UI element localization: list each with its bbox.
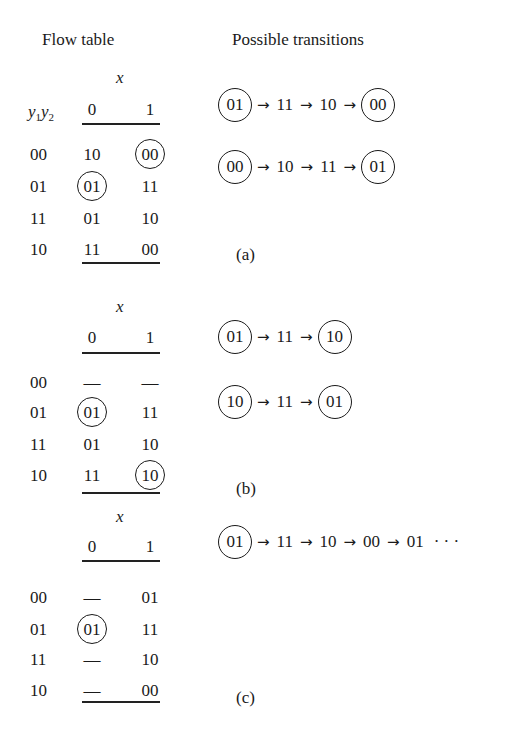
table-cell: 01 xyxy=(72,209,112,229)
table-cell: 10 xyxy=(130,466,170,490)
table-cell: — xyxy=(130,373,170,393)
state-label: 00 xyxy=(30,373,47,393)
stable-state-circle: 01 xyxy=(361,150,395,184)
column-header: 1 xyxy=(130,537,170,557)
state-label: 00 xyxy=(30,588,47,608)
transition-sequence: 01→11→10 xyxy=(218,320,352,354)
arrow-icon: → xyxy=(382,533,405,551)
column-header: 0 xyxy=(72,328,112,348)
column-header: 0 xyxy=(72,537,112,557)
next-state-value: 11 xyxy=(84,466,100,485)
next-state-value: 11 xyxy=(142,177,158,196)
table-cell: 11 xyxy=(72,466,112,486)
next-state-value: 01 xyxy=(142,588,159,607)
state-label: 01 xyxy=(30,177,47,197)
input-variable-label: x xyxy=(116,68,124,88)
transient-state: 01 xyxy=(405,532,426,552)
transitions-header: Possible transitions xyxy=(232,30,364,50)
stable-state-circle: 01 xyxy=(77,397,107,427)
transient-state: 10 xyxy=(275,157,296,177)
column-header: 1 xyxy=(130,328,170,348)
state-label: 01 xyxy=(30,403,47,423)
state-label: 10 xyxy=(30,466,47,486)
footer-rule xyxy=(82,492,160,494)
arrow-icon: → xyxy=(295,328,318,346)
stable-state-circle: 10 xyxy=(318,320,352,354)
state-label: 00 xyxy=(30,145,47,165)
table-cell: 00 xyxy=(130,681,170,701)
table-cell: 01 xyxy=(72,177,112,201)
table-cell: 11 xyxy=(130,177,170,197)
transition-sequence: 10→11→01 xyxy=(218,385,352,419)
state-label: 10 xyxy=(30,681,47,701)
table-cell: 00 xyxy=(130,240,170,260)
state-label: 11 xyxy=(30,650,46,670)
transition-sequence: 01→11→10→00 xyxy=(218,88,395,122)
next-state-value: — xyxy=(84,588,101,607)
y2-sub: 2 xyxy=(49,111,55,123)
figure-caption: (a) xyxy=(236,245,255,265)
flow-table-header: Flow table xyxy=(42,30,114,50)
next-state-value: 11 xyxy=(84,240,100,259)
footer-rule xyxy=(82,262,160,264)
transient-state: 10 xyxy=(318,95,339,115)
table-cell: 01 xyxy=(72,403,112,427)
transient-state: 11 xyxy=(275,532,295,552)
table-cell: 01 xyxy=(72,435,112,455)
stable-state-circle: 00 xyxy=(361,88,395,122)
next-state-value: 01 xyxy=(84,209,101,228)
arrow-icon: → xyxy=(296,158,319,176)
arrow-icon: → xyxy=(295,96,318,114)
next-state-value: 11 xyxy=(142,620,158,639)
transient-state: 11 xyxy=(318,157,338,177)
arrow-icon: → xyxy=(339,158,362,176)
next-state-value: 10 xyxy=(142,209,159,228)
state-variables-label: y1y2 xyxy=(28,102,54,123)
table-cell: 11 xyxy=(130,620,170,640)
transient-state: 00 xyxy=(361,532,382,552)
transient-state: 11 xyxy=(275,327,295,347)
arrow-icon: → xyxy=(252,328,275,346)
stable-state-circle: 01 xyxy=(218,320,252,354)
table-cell: 11 xyxy=(130,403,170,423)
header-rule xyxy=(82,560,160,562)
arrow-icon: → xyxy=(252,158,275,176)
stable-state-circle: 01 xyxy=(218,88,252,122)
next-state-value: — xyxy=(84,650,101,669)
arrow-icon: → xyxy=(295,533,318,551)
next-state-value: — xyxy=(84,373,101,392)
stable-state-circle: 00 xyxy=(135,139,165,169)
transition-sequence: 00→10→11→01 xyxy=(218,150,395,184)
y2-var: y xyxy=(41,102,49,121)
next-state-value: 00 xyxy=(142,681,159,700)
stable-state-circle: 01 xyxy=(218,525,252,559)
stable-state-circle: 10 xyxy=(135,460,165,490)
transient-state: 11 xyxy=(275,392,295,412)
arrow-icon: → xyxy=(252,533,275,551)
stable-state-circle: 10 xyxy=(218,385,252,419)
table-cell: 10 xyxy=(130,650,170,670)
header-rule xyxy=(82,123,160,125)
arrow-icon: → xyxy=(339,96,362,114)
y1-var: y xyxy=(28,102,36,121)
table-cell: 11 xyxy=(72,240,112,260)
input-variable-label: x xyxy=(116,297,124,317)
figure-caption: (c) xyxy=(236,688,255,708)
footer-rule xyxy=(82,701,160,703)
arrow-icon: → xyxy=(339,533,362,551)
input-variable-label: x xyxy=(116,507,124,527)
state-label: 10 xyxy=(30,240,47,260)
table-cell: 01 xyxy=(72,620,112,644)
state-label: 11 xyxy=(30,435,46,455)
next-state-value: 10 xyxy=(142,650,159,669)
table-cell: 00 xyxy=(130,145,170,169)
state-label: 01 xyxy=(30,620,47,640)
next-state-value: 11 xyxy=(142,403,158,422)
next-state-value: 00 xyxy=(142,240,159,259)
transient-state: · · · xyxy=(432,532,461,552)
table-cell: 10 xyxy=(130,209,170,229)
stable-state-circle: 01 xyxy=(77,614,107,644)
table-cell: — xyxy=(72,650,112,670)
table-cell: — xyxy=(72,681,112,701)
arrow-icon: → xyxy=(252,96,275,114)
